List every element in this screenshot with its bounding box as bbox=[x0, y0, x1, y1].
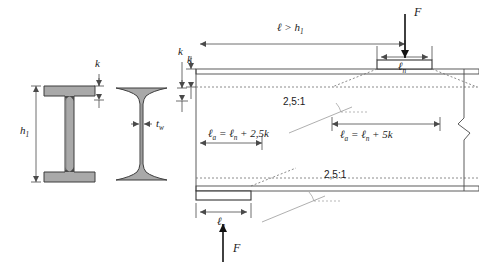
bottom-flange bbox=[196, 186, 479, 191]
angle-arc-lower bbox=[309, 192, 314, 201]
dispersion-bottom-right bbox=[251, 168, 296, 186]
top-bearing-length-label: ℓn bbox=[398, 60, 406, 75]
bottom-force-label: F bbox=[233, 241, 240, 256]
slope-guide-lower bbox=[262, 196, 325, 222]
top-force-label: F bbox=[414, 5, 421, 20]
edge-la-formula: ℓa = ℓn + 2,5k bbox=[208, 127, 269, 142]
slope-label-lower: 2,5:1 bbox=[324, 169, 346, 180]
tapered-beam-outline bbox=[116, 88, 167, 180]
elevation-k-label: k bbox=[187, 53, 192, 65]
interior-la-formula: ℓa = ℓn + 5k bbox=[340, 128, 393, 143]
tapered-profile-section bbox=[116, 62, 188, 180]
profile-height-label: h1 bbox=[20, 124, 29, 139]
rolled-profile-section bbox=[31, 74, 104, 182]
bottom-bearing-plate bbox=[196, 191, 251, 200]
profile-flange-k-label: k bbox=[95, 57, 100, 69]
slope-label-upper: 2,5:1 bbox=[283, 96, 305, 107]
web-thickness-label: tw bbox=[156, 117, 164, 132]
angle-arc-upper bbox=[336, 103, 341, 112]
tapered-flange-k-label: k bbox=[178, 45, 183, 57]
span-label: ℓ > h1 bbox=[277, 21, 304, 36]
bottom-bearing-length-label: ℓn bbox=[217, 215, 225, 230]
i-beam-outline bbox=[44, 86, 95, 182]
top-flange bbox=[196, 69, 479, 74]
